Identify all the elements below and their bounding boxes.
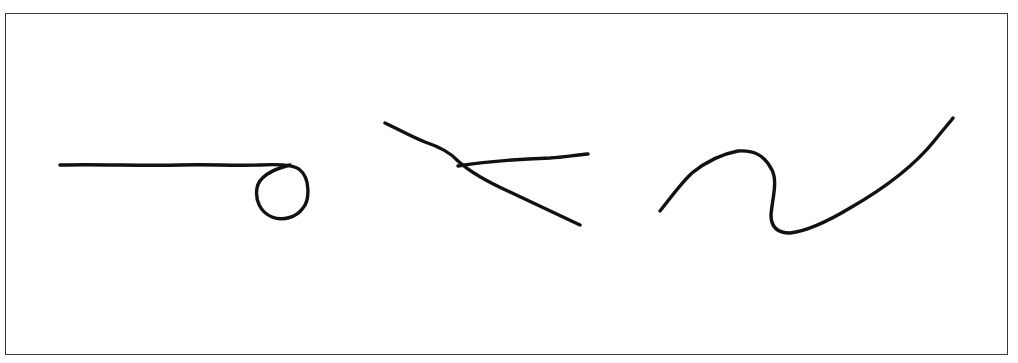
stroke-crossing-line-b	[458, 154, 588, 166]
strokes-canvas	[0, 0, 1018, 363]
stroke-crossing-line-a	[385, 123, 580, 225]
stroke-s-curve	[660, 118, 953, 233]
stroke-line-with-loop	[60, 165, 308, 219]
